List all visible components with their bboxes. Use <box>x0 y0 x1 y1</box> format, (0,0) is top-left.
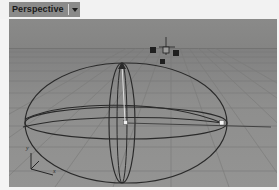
axis-label-y: y <box>26 145 29 151</box>
perspective-viewport[interactable]: y x <box>9 19 277 187</box>
viewport-label-dropdown[interactable]: Perspective <box>9 2 80 17</box>
axis-label-x: x <box>53 168 56 174</box>
app-root: y x Perspective <box>0 0 279 190</box>
viewport-top-bar: Perspective <box>0 0 279 19</box>
viewport-label-text: Perspective <box>12 4 64 15</box>
left-gutter <box>0 19 9 190</box>
right-gutter <box>277 19 279 190</box>
chevron-down-icon[interactable] <box>72 8 78 12</box>
axis-tripod <box>9 19 277 187</box>
bottom-gutter <box>0 187 279 190</box>
label-separator <box>68 4 69 15</box>
